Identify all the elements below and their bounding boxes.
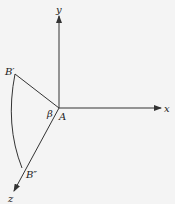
point-b-prime-label: B′	[4, 66, 15, 77]
angle-label: β	[46, 108, 53, 119]
rotation-arc	[11, 74, 22, 168]
origin-label: A	[58, 111, 66, 122]
axes-diagram: y x z A β B′ B″	[0, 0, 175, 204]
x-axis-label: x	[164, 103, 170, 114]
point-b-double-prime-label: B″	[25, 169, 37, 180]
y-axis-label: y	[55, 4, 62, 15]
segment-a-b-prime	[15, 74, 59, 108]
z-axis-label: z	[7, 193, 14, 204]
